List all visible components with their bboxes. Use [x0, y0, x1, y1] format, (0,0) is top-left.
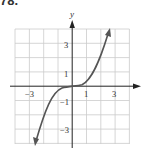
svg-text:1: 1: [64, 69, 68, 79]
tick-labels: −3 1 3 3 1 −1 −3: [25, 40, 116, 135]
y-axis-label: y: [69, 9, 74, 19]
svg-text:3: 3: [64, 40, 68, 50]
cubic-graph: y −3 1 3 3 1 −1 −3: [0, 0, 143, 150]
x-axis-arrow-icon: [133, 84, 141, 89]
svg-text:3: 3: [112, 89, 116, 99]
svg-text:−1: −1: [60, 97, 69, 107]
svg-text:−3: −3: [60, 125, 69, 135]
svg-text:−3: −3: [25, 89, 34, 99]
y-axis-arrow-icon: [70, 20, 75, 28]
svg-text:1: 1: [84, 89, 88, 99]
curve-arrow-bottom-icon: [33, 137, 39, 146]
